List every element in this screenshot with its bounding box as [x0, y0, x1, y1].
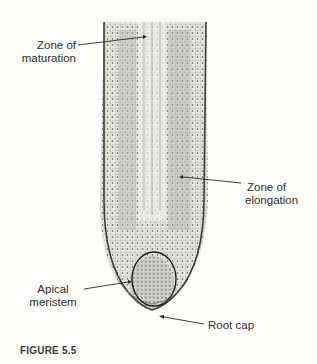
label-zone-of-elongation: Zone of elongation: [245, 181, 298, 207]
figure-caption: FIGURE 5.5: [20, 345, 76, 356]
label-elongation-line2: elongation: [245, 194, 298, 207]
root-body: [95, 20, 215, 320]
label-maturation-line1: Zone of: [14, 39, 76, 52]
label-elongation-line1: Zone of: [245, 181, 298, 194]
label-meristem-line1: Apical: [24, 283, 82, 296]
root-cap-leader: [164, 317, 204, 324]
label-zone-of-maturation: Zone of maturation: [14, 39, 76, 65]
label-apical-meristem: Apical meristem: [24, 283, 82, 309]
label-root-cap: Root cap: [208, 319, 254, 332]
label-meristem-line2: meristem: [24, 296, 82, 309]
label-maturation-line2: maturation: [14, 52, 76, 65]
